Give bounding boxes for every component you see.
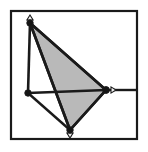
figure-root bbox=[0, 0, 148, 152]
node-b bbox=[25, 90, 31, 96]
diagram-canvas bbox=[0, 0, 148, 152]
node-d bbox=[67, 127, 73, 133]
node-c bbox=[103, 87, 110, 94]
node-a bbox=[27, 20, 33, 26]
